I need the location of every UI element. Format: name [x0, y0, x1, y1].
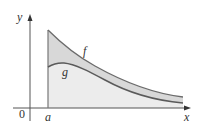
a-tick-label: a: [45, 111, 51, 123]
origin-label: 0: [19, 108, 25, 120]
graph-canvas: [0, 0, 200, 131]
curve-g-label: g: [62, 66, 68, 78]
area-between-curves-figure: y x 0 a f g: [0, 0, 200, 131]
x-axis-label: x: [184, 111, 189, 123]
curve-f-label: f: [83, 45, 86, 57]
y-axis-arrow-icon: [28, 14, 33, 21]
y-axis-label: y: [17, 11, 22, 23]
